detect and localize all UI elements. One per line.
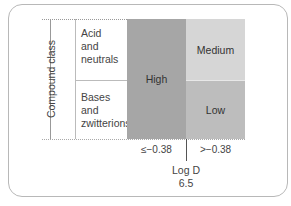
cell-high: High — [127, 19, 186, 139]
bottom-border — [42, 139, 245, 140]
x-tick-high: >−0.38 — [200, 144, 231, 155]
row-label-line: Acid — [81, 27, 118, 40]
x-tick-low: ≤−0.38 — [141, 144, 172, 155]
row-label-bases: Bases and zwitterions — [81, 91, 131, 130]
x-axis-split-tick — [186, 139, 187, 161]
x-axis-subtitle: 6.5 — [166, 177, 206, 190]
cell-low-label: Low — [206, 104, 225, 116]
cell-low: Low — [186, 80, 245, 139]
x-axis-label: Log D 6.5 — [166, 164, 206, 190]
row-label-line: and — [81, 104, 131, 117]
x-axis-title: Log D — [166, 164, 206, 177]
cell-medium: Medium — [186, 19, 245, 80]
row-label-acids: Acid and neutrals — [81, 27, 118, 66]
row-label-divider — [75, 19, 76, 139]
row-label-line: neutrals — [81, 53, 118, 66]
row-label-line: and — [81, 40, 118, 53]
cell-high-label: High — [146, 73, 168, 85]
y-axis-label: Compound class — [45, 40, 57, 118]
cell-medium-label: Medium — [197, 44, 234, 56]
row-label-line: Bases — [81, 91, 131, 104]
row-divider — [75, 80, 127, 81]
row-label-line: zwitterions — [81, 117, 131, 130]
